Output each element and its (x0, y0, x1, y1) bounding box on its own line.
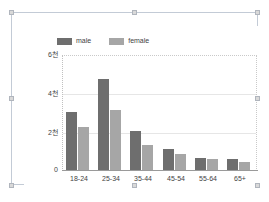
resize-handle-e[interactable] (255, 96, 260, 101)
bar-female-25-34[interactable] (110, 110, 121, 170)
resize-handle-sw[interactable] (9, 183, 14, 188)
x-axis: 18-24 25-34 35-44 45-54 55-64 65+ (63, 174, 257, 186)
x-tick-label-25-34: 25-34 (94, 174, 128, 183)
y-axis: 6천 4천 2천 0 (32, 26, 58, 197)
legend-entry-male[interactable]: male (57, 37, 91, 45)
bar-female-55-64[interactable] (207, 159, 218, 170)
bar-male-18-24[interactable] (66, 112, 77, 170)
bar-female-18-24[interactable] (78, 127, 89, 170)
y-tick-label-4000: 4천 (48, 90, 58, 98)
legend-label-female: female (128, 37, 149, 45)
bar-male-25-34[interactable] (98, 79, 109, 170)
chart-legend: male female (57, 37, 149, 45)
resize-handle-ne[interactable] (255, 10, 260, 15)
bar-female-65plus[interactable] (239, 162, 250, 170)
resize-handle-s[interactable] (132, 183, 137, 188)
y-tick-label-0: 0 (54, 166, 58, 174)
resize-handle-se[interactable] (255, 183, 260, 188)
legend-swatch-female (109, 38, 124, 45)
bar-group-65plus (224, 55, 256, 170)
x-tick-label-18-24: 18-24 (62, 174, 96, 183)
x-tick-label-55-64: 55-64 (191, 174, 225, 183)
bar-group-45-54 (160, 55, 192, 170)
bar-male-45-54[interactable] (163, 149, 174, 170)
bar-female-45-54[interactable] (175, 154, 186, 170)
resize-handle-nw[interactable] (9, 10, 14, 15)
bar-male-65plus[interactable] (227, 159, 238, 170)
bar-group-55-64 (192, 55, 224, 170)
legend-entry-female[interactable]: female (109, 37, 149, 45)
x-tick-label-35-44: 35-44 (126, 174, 160, 183)
chart-canvas: male female 6천 4천 2천 0 (24, 26, 269, 197)
resize-handle-w[interactable] (9, 96, 14, 101)
y-tick-label-6000: 6천 (48, 51, 58, 59)
bars-layer (63, 55, 257, 170)
x-tick-label-65plus: 65+ (223, 174, 257, 183)
bar-male-55-64[interactable] (195, 158, 206, 170)
bar-female-35-44[interactable] (142, 145, 153, 170)
legend-swatch-male (57, 38, 72, 45)
x-tick-label-45-54: 45-54 (159, 174, 193, 183)
legend-label-male: male (76, 37, 91, 45)
resize-handle-n[interactable] (132, 10, 137, 15)
bar-male-35-44[interactable] (130, 131, 141, 170)
bar-group-18-24 (63, 55, 95, 170)
y-tick-label-2000: 2천 (48, 129, 58, 137)
chart-object[interactable]: male female 6천 4천 2천 0 (0, 0, 269, 202)
x-axis-line (62, 170, 258, 171)
bar-group-25-34 (95, 55, 127, 170)
selection-frame: male female 6천 4천 2천 0 (11, 12, 258, 185)
bar-group-35-44 (127, 55, 159, 170)
